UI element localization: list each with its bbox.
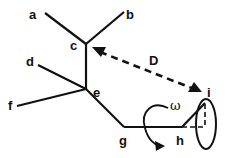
bond-e-g: [86, 89, 124, 127]
label-a: a: [29, 7, 37, 22]
label-c: c: [70, 38, 77, 53]
bond-d-e: [38, 65, 86, 89]
label-d: d: [26, 54, 34, 69]
label-g: g: [119, 133, 127, 148]
bond-h-i: [182, 103, 205, 127]
label-b: b: [126, 7, 134, 22]
rotation-arc: [144, 105, 168, 146]
distance-dashed-line: [100, 52, 194, 89]
molecular-torsion-diagram: a b c d e f g h i D ω: [0, 0, 226, 158]
label-e: e: [93, 85, 100, 100]
bond-a-c: [45, 13, 86, 44]
label-f: f: [8, 98, 13, 113]
label-distance-d: D: [149, 53, 158, 68]
label-h: h: [176, 133, 184, 148]
label-i: i: [207, 85, 211, 100]
bond-f-e: [17, 89, 86, 106]
rotation-arrowhead-icon: [155, 141, 165, 151]
rotation-ellipse: [196, 99, 216, 149]
label-omega: ω: [170, 98, 181, 113]
arrowhead-c-icon: [92, 47, 106, 57]
bond-b-c: [86, 12, 124, 44]
